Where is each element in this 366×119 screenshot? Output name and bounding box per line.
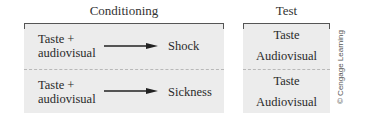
test-heading: Test bbox=[243, 3, 330, 19]
cs-line-1: Taste + bbox=[38, 78, 96, 92]
row-divider bbox=[24, 69, 224, 70]
test-row-2-line-1: Taste bbox=[243, 74, 330, 88]
conditioning-panel: Taste + audiovisual Shock Taste + audiov… bbox=[24, 23, 224, 113]
cs-line-2: audiovisual bbox=[38, 92, 96, 106]
row-divider bbox=[243, 69, 330, 70]
test-row-2-line-2: Audiovisual bbox=[243, 95, 330, 109]
cs-line-1: Taste + bbox=[38, 32, 96, 46]
cs-row-1: Taste + audiovisual bbox=[38, 32, 96, 60]
test-panel: Taste Audiovisual Taste Audiovisual bbox=[243, 23, 330, 113]
arrow-icon bbox=[104, 87, 158, 95]
arrow-icon bbox=[104, 42, 158, 50]
cs-line-2: audiovisual bbox=[38, 46, 96, 60]
test-row-1-line-2: Audiovisual bbox=[243, 49, 330, 63]
us-label-2: Sickness bbox=[168, 85, 212, 99]
us-label-1: Shock bbox=[168, 39, 199, 53]
test-row-1-line-1: Taste bbox=[243, 28, 330, 42]
conditioning-heading: Conditioning bbox=[24, 3, 224, 19]
cs-row-2: Taste + audiovisual bbox=[38, 78, 96, 106]
copyright-credit: © Cengage Learning bbox=[336, 30, 345, 104]
